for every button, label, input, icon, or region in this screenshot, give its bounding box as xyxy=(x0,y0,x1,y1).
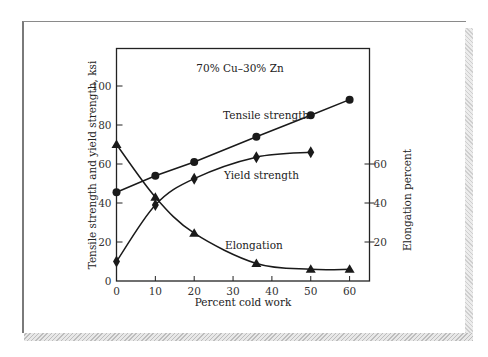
circle-marker xyxy=(151,172,159,180)
x-tick-label: 10 xyxy=(149,285,162,297)
y-axis-title: Tensile strength and yield strength, ksi xyxy=(86,60,98,269)
y2-tick-label: 20 xyxy=(374,236,387,248)
chart: 0102030405060020406080100204060 70% Cu–3… xyxy=(0,0,488,357)
y-tick-label: 60 xyxy=(98,158,111,170)
diamond-marker xyxy=(253,151,260,163)
label-yield-strength: Yield strength xyxy=(223,169,299,181)
y-tick-label: 80 xyxy=(98,119,111,131)
x-axis-title: Percent cold work xyxy=(195,296,292,308)
x-tick-label: 60 xyxy=(343,285,356,297)
y2-tick-label: 40 xyxy=(374,197,387,209)
y-tick-label: 20 xyxy=(98,236,111,248)
diamond-marker xyxy=(191,173,198,185)
triangle-marker xyxy=(112,140,122,149)
x-tick-label: 50 xyxy=(304,285,317,297)
y-tick-label: 40 xyxy=(98,197,111,209)
diamond-marker xyxy=(307,146,314,158)
chart-annotation: 70% Cu–30% Zn xyxy=(196,62,284,74)
triangle-marker xyxy=(189,228,199,237)
circle-marker xyxy=(346,96,354,104)
label-elongation: Elongation xyxy=(225,239,283,251)
y-tick-label: 0 xyxy=(105,275,112,287)
circle-marker xyxy=(252,133,260,141)
y2-tick-label: 60 xyxy=(374,158,387,170)
circle-marker xyxy=(190,158,198,166)
triangle-marker xyxy=(345,264,355,273)
y2-axis-title: Elongation percent xyxy=(401,148,413,251)
label-tensile-strength: Tensile strength xyxy=(223,109,309,121)
x-tick-label: 0 xyxy=(113,285,120,297)
circle-marker xyxy=(113,188,121,196)
